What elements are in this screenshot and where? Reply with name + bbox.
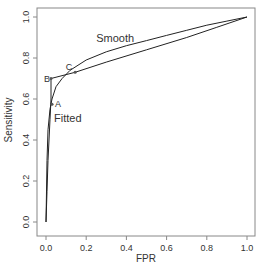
x-tick-label: 0.8 xyxy=(201,243,214,253)
x-axis-label: FPR xyxy=(136,253,156,264)
x-tick-label: 0.4 xyxy=(120,243,133,253)
y-tick-label: 0.8 xyxy=(21,52,31,65)
annotation-smooth: Smooth xyxy=(96,32,134,44)
y-tick-label: 0.6 xyxy=(21,93,31,106)
point-a xyxy=(51,103,54,106)
point-label-c: C xyxy=(66,62,73,72)
x-tick-label: 0.0 xyxy=(40,243,53,253)
x-tick-label: 0.6 xyxy=(160,243,173,253)
annotation-fitted: Fitted xyxy=(54,112,82,124)
y-tick-label: 0.0 xyxy=(21,216,31,229)
x-tick-label: 1.0 xyxy=(241,243,254,253)
point-c xyxy=(74,71,77,74)
y-axis-label: Sensitivity xyxy=(3,97,14,142)
y-tick-label: 0.4 xyxy=(21,134,31,147)
x-tick-label: 0.2 xyxy=(80,243,93,253)
point-label-b: B xyxy=(44,74,50,84)
roc-chart: 0.00.20.40.60.81.00.00.20.40.60.81.0 Smo… xyxy=(0,0,263,273)
y-tick-label: 1.0 xyxy=(21,11,31,24)
point-label-a: A xyxy=(55,99,61,109)
y-tick-label: 0.2 xyxy=(21,175,31,188)
